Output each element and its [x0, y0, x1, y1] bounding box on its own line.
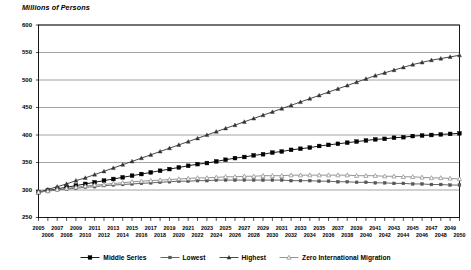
legend-item[interactable]: Middle Series: [80, 253, 146, 262]
x-tick-label: 2024: [210, 232, 222, 238]
legend-label: Middle Series: [103, 254, 146, 261]
y-tick-label: 350: [10, 159, 32, 165]
x-tick-label: 2048: [435, 232, 447, 238]
legend-label: Zero International Migration: [302, 254, 391, 261]
x-tick-label: 2013: [107, 225, 119, 231]
x-tick-label: 2010: [79, 232, 91, 238]
legend-label: Highest: [242, 254, 267, 261]
x-tick-label: 2018: [154, 232, 166, 238]
x-tick-label: 2008: [61, 232, 73, 238]
x-tick-label: 2011: [89, 225, 101, 231]
x-tick-label: 2033: [294, 225, 306, 231]
x-tick-label: 2012: [98, 232, 110, 238]
y-tick-label: 450: [10, 104, 32, 110]
legend-item[interactable]: Zero International Migration: [279, 253, 391, 262]
y-tick-label: 500: [10, 77, 32, 83]
legend-marker-icon: [80, 253, 100, 262]
legend-marker-icon: [279, 253, 299, 262]
legend-marker-icon: [160, 253, 180, 262]
y-tick-label: 400: [10, 132, 32, 138]
x-tick-label: 2028: [248, 232, 260, 238]
x-tick-label: 2034: [304, 232, 316, 238]
legend-item[interactable]: Highest: [219, 253, 267, 262]
gridlines: [39, 25, 460, 190]
x-tick-label: 2019: [163, 225, 175, 231]
x-tick-label: 2005: [33, 225, 45, 231]
x-tick-label: 2039: [351, 225, 363, 231]
x-tick-label: 2027: [238, 225, 250, 231]
x-tick-label: 2032: [285, 232, 297, 238]
x-tick-label: 2038: [341, 232, 353, 238]
x-tick-label: 2007: [51, 225, 63, 231]
x-tick-label: 2029: [257, 225, 269, 231]
x-tick-label: 2023: [201, 225, 213, 231]
data-series-group: [36, 53, 461, 194]
x-tick-label: 2037: [332, 225, 344, 231]
y-tick-label: 300: [10, 187, 32, 193]
x-tick-label: 2020: [173, 232, 185, 238]
x-tick-label: 2049: [444, 225, 456, 231]
x-tick-label: 2036: [323, 232, 335, 238]
x-tick-label: 2025: [220, 225, 232, 231]
x-tick-label: 2040: [360, 232, 372, 238]
x-tick-label: 2045: [407, 225, 419, 231]
x-tick-label: 2047: [425, 225, 437, 231]
x-tick-label: 2030: [266, 232, 278, 238]
x-tick-label: 2016: [135, 232, 147, 238]
series-line: [37, 53, 462, 194]
legend-marker-icon: [219, 253, 239, 262]
x-tick-label: 2046: [416, 232, 428, 238]
x-tick-label: 2042: [379, 232, 391, 238]
x-tick-label: 2014: [117, 232, 129, 238]
x-tick-label: 2017: [145, 225, 157, 231]
x-tick-label: 2043: [388, 225, 400, 231]
x-tick-label: 2050: [454, 232, 466, 238]
legend-label: Lowest: [183, 254, 206, 261]
population-projection-chart: Millions of Persons 25030035040045050055…: [0, 0, 471, 270]
y-tick-label: 600: [10, 22, 32, 28]
x-axis-ticks: [36, 25, 460, 221]
y-tick-label: 550: [10, 49, 32, 55]
axis-frame: [39, 25, 460, 218]
x-tick-label: 2006: [42, 232, 54, 238]
x-tick-label: 2035: [313, 225, 325, 231]
x-tick-label: 2015: [126, 225, 138, 231]
legend-item[interactable]: Lowest: [160, 253, 206, 262]
chart-legend: Middle SeriesLowestHighestZero Internati…: [0, 249, 471, 265]
x-tick-label: 2009: [70, 225, 82, 231]
x-tick-label: 2041: [369, 225, 381, 231]
x-tick-label: 2031: [276, 225, 288, 231]
y-tick-label: 250: [10, 214, 32, 220]
x-tick-label: 2044: [397, 232, 409, 238]
x-tick-label: 2022: [192, 232, 204, 238]
x-tick-label: 2021: [182, 225, 194, 231]
x-tick-label: 2026: [229, 232, 241, 238]
